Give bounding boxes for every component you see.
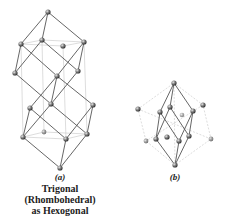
atom xyxy=(167,104,172,109)
atom xyxy=(84,131,89,136)
atom xyxy=(57,165,62,170)
atom xyxy=(81,39,86,44)
atom xyxy=(172,162,177,167)
panel-a-caption-line-1: Trigonal xyxy=(10,183,110,194)
atom xyxy=(144,139,149,144)
panel-b-hex-guide xyxy=(138,83,211,165)
atom xyxy=(90,102,95,107)
atom xyxy=(75,68,80,73)
atom xyxy=(157,109,162,114)
atom xyxy=(45,9,50,14)
atom xyxy=(48,101,53,106)
panel-a-label: (a) xyxy=(10,172,110,183)
atom xyxy=(135,106,140,111)
panel-b-label: (b) xyxy=(155,172,195,183)
atom xyxy=(200,102,205,107)
atom xyxy=(176,138,181,143)
atom xyxy=(171,80,176,85)
atom xyxy=(42,130,47,135)
panel-a-bonds xyxy=(15,12,93,168)
panel-a-caption-line-3: as Hexogonal xyxy=(10,205,110,216)
atom xyxy=(27,105,32,110)
panel-b-caption: (b) xyxy=(155,172,195,183)
atom xyxy=(18,41,23,46)
atom xyxy=(12,70,17,75)
atom xyxy=(180,113,185,118)
atom xyxy=(60,43,65,48)
atom xyxy=(63,136,68,141)
atom xyxy=(186,133,191,138)
atom xyxy=(153,136,158,141)
atom xyxy=(20,134,25,139)
panel-a-caption: (a) Trigonal (Rhombohedral) as Hexogonal xyxy=(10,172,110,216)
atom xyxy=(164,134,169,139)
atom xyxy=(190,108,195,113)
atom xyxy=(54,73,59,78)
atom xyxy=(39,37,44,42)
atom xyxy=(209,137,214,142)
panel-a-caption-line-2: (Rhombohedral) xyxy=(10,194,110,205)
